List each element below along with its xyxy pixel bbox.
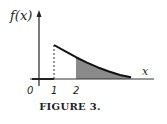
x-tick-label-2: 2 [73, 85, 79, 96]
y-axis-arrow [37, 10, 42, 17]
x-axis-label: x [142, 65, 149, 78]
y-axis-label: f(x) [9, 8, 32, 23]
x-tick-label-0: 0 [27, 85, 33, 96]
figure-caption: FIGURE 3. [0, 101, 140, 112]
x-tick-label-1: 1 [51, 85, 57, 96]
